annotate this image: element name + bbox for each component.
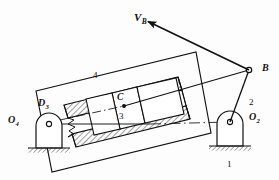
label-link-number-1: 1 xyxy=(227,160,232,169)
label-pivot-o2: O2 xyxy=(249,112,260,125)
label-link-number-3: 3 xyxy=(119,112,124,121)
mechanism-diagram: VB B O2 O4 D3 C 1 2 3 4 xyxy=(0,0,279,180)
label-link-number-4: 4 xyxy=(93,71,98,80)
ground-hatch-o2 xyxy=(209,146,251,151)
pivot-o4-joint xyxy=(46,121,51,126)
label-point-c: C xyxy=(117,93,123,103)
ground-hatch-o4 xyxy=(28,148,70,153)
label-link-number-2: 2 xyxy=(249,98,254,107)
label-point-b: B xyxy=(262,63,269,73)
label-pivot-o4: O4 xyxy=(8,115,19,128)
diagram-canvas xyxy=(0,0,279,180)
label-velocity-vb: VB xyxy=(134,12,147,26)
pivot-o2-support xyxy=(209,111,251,151)
label-point-d3: D3 xyxy=(38,98,49,111)
